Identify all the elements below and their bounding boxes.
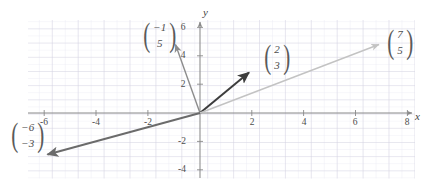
y-tick-4: 4 bbox=[174, 50, 192, 60]
y-tick-neg4: -4 bbox=[172, 164, 192, 174]
x-tick-neg4: -4 bbox=[86, 117, 106, 127]
major-gridlines bbox=[28, 20, 415, 179]
y-axis-label: y bbox=[203, 6, 208, 18]
x-tick-neg2: -2 bbox=[138, 117, 158, 127]
vector-diagram-canvas: x y -6 -4 -2 2 4 6 8 6 4 2 -2 -4 ( −1 5 … bbox=[0, 0, 430, 190]
y-tick-2: 2 bbox=[174, 79, 192, 89]
x-tick-6: 6 bbox=[345, 117, 365, 127]
x-tick-neg6: -6 bbox=[34, 117, 54, 127]
coordinate-plane-svg bbox=[0, 0, 430, 190]
y-tick-neg2: -2 bbox=[172, 136, 192, 146]
x-tick-2: 2 bbox=[242, 117, 262, 127]
x-tick-8: 8 bbox=[397, 117, 417, 127]
x-tick-4: 4 bbox=[294, 117, 314, 127]
grid-layer bbox=[28, 20, 415, 179]
y-tick-6: 6 bbox=[174, 22, 192, 32]
